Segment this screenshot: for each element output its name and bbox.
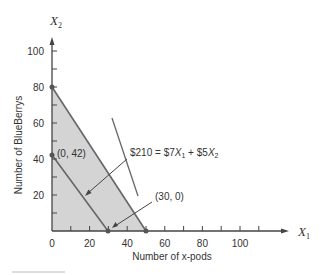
y-axis-variable-label: X2 (49, 13, 62, 30)
x-tick-label-60: 60 (159, 238, 171, 249)
y-tick-label-80: 80 (33, 82, 45, 93)
x-axis-variable-label: X1 (297, 224, 310, 241)
lp-graph: 20 40 60 80 100 0 20 40 60 80 100 X2 X1 … (0, 0, 325, 275)
y-tick-label-20: 20 (33, 190, 45, 201)
x-tick-label-40: 40 (122, 238, 134, 249)
x-axis-arrow-icon (281, 229, 289, 234)
x-tick-label-100: 100 (232, 238, 249, 249)
point-0-42 (50, 153, 55, 158)
isoprofit-equation-label: $210 = $7X1 + $5X2 (130, 147, 219, 159)
y-tick-label-40: 40 (33, 154, 45, 165)
x-tick-label-0: 0 (49, 238, 55, 249)
label-point-0-42: (0, 42) (57, 148, 86, 159)
x-tick-label-80: 80 (197, 238, 209, 249)
y-tick-label-60: 60 (33, 118, 45, 129)
x-tick-label-20: 20 (84, 238, 96, 249)
label-point-30-0: (30, 0) (155, 191, 184, 202)
point-30-0 (106, 229, 111, 234)
x-axis-title: Number of x-pods (132, 251, 211, 262)
y-axis-arrow-icon (50, 37, 55, 45)
point-50-0 (144, 229, 149, 234)
y-tick-label-100: 100 (27, 46, 44, 57)
point-0-80 (50, 85, 55, 90)
y-axis-title: Number of BlueBerrys (13, 96, 24, 194)
